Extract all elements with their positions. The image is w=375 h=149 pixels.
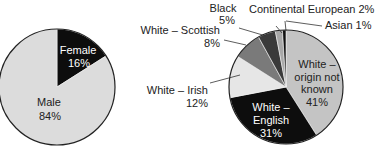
label-unknown-1: White – [298,58,336,70]
chart-canvas: Female 16% Male 84% Black 5% Continental… [0,0,375,149]
label-scottish-pct: 8% [204,37,220,49]
label-asian: Asian 1% [325,19,372,31]
label-english-pct: 31% [260,127,282,139]
label-english-1: White – [252,101,290,113]
label-black: Black [210,2,237,14]
label-female: Female [60,44,97,56]
label-irish-pct: 12% [186,97,208,109]
label-female-pct: 16% [68,57,90,69]
label-black-pct: 5% [219,14,235,26]
pie-gender [0,29,115,145]
label-scottish: White – Scottish [141,24,220,36]
label-unknown-pct: 41% [306,96,328,108]
label-unknown-2: origin not [294,71,339,83]
label-male: Male [37,96,61,108]
label-english-2: English [253,114,289,126]
label-male-pct: 84% [39,110,61,122]
label-unknown-3: known [301,83,333,95]
label-continental: Continental European 2% [249,3,375,15]
label-irish: White – Irish [147,84,208,96]
